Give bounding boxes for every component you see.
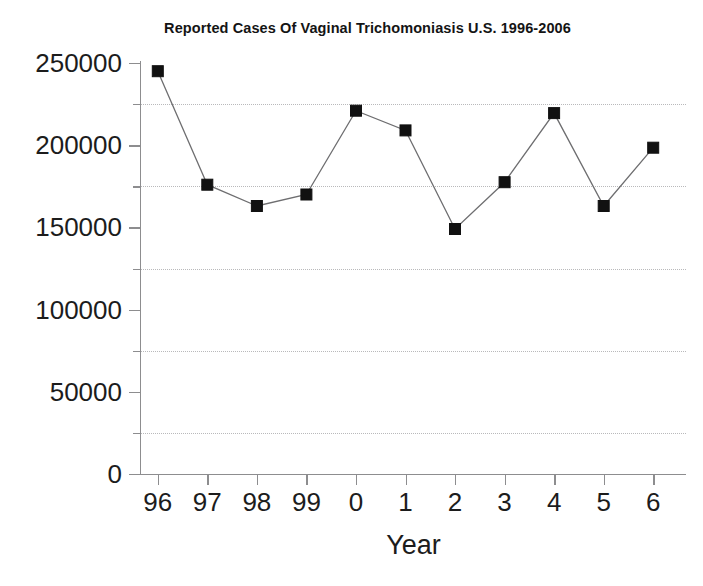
data-point-marker	[152, 66, 163, 77]
x-axis-tick	[604, 474, 605, 485]
data-point-marker	[549, 108, 560, 119]
data-point-marker	[251, 201, 262, 212]
y-axis-minor-tick	[133, 433, 141, 434]
y-axis-tick	[129, 227, 141, 228]
data-point-markers	[152, 66, 658, 235]
x-axis-tick	[455, 474, 456, 485]
x-axis-tick	[257, 474, 258, 485]
x-axis-tick	[158, 474, 159, 485]
y-axis-tick	[129, 474, 141, 475]
x-axis-tick-label: 6	[623, 489, 683, 515]
y-axis-tick-label: 250000	[0, 50, 122, 76]
x-axis-tick	[207, 474, 208, 485]
y-axis-minor-tick	[133, 104, 141, 105]
data-series-line	[133, 55, 694, 482]
data-point-marker	[598, 201, 609, 212]
data-point-marker	[648, 142, 659, 153]
data-point-marker	[202, 179, 213, 190]
data-point-marker	[400, 125, 411, 136]
x-axis-tick	[356, 474, 357, 485]
data-point-marker	[450, 224, 461, 235]
x-axis-tick	[554, 474, 555, 485]
data-point-marker	[351, 105, 362, 116]
series-polyline	[158, 71, 653, 229]
x-axis-tick	[505, 474, 506, 485]
y-axis-tick	[129, 310, 141, 311]
y-axis-tick	[129, 145, 141, 146]
data-point-marker	[499, 177, 510, 188]
y-axis-minor-tick	[133, 186, 141, 187]
y-axis-tick-label: 50000	[0, 379, 122, 405]
data-point-marker	[301, 189, 312, 200]
y-axis-tick-label: 200000	[0, 132, 122, 158]
x-axis-title: Year	[141, 530, 686, 561]
y-axis-minor-tick	[133, 351, 141, 352]
y-axis-tick-label: 100000	[0, 297, 122, 323]
x-axis-tick	[653, 474, 654, 485]
x-axis-tick	[306, 474, 307, 485]
y-axis-tick	[129, 392, 141, 393]
y-axis-tick-label: 0	[0, 461, 122, 487]
y-axis-tick	[129, 63, 141, 64]
chart-title: Reported Cases Of Vaginal Trichomoniasis…	[0, 20, 703, 36]
y-axis-minor-tick	[133, 269, 141, 270]
plot-area	[141, 63, 686, 474]
chart-container: Reported Cases Of Vaginal Trichomoniasis…	[0, 0, 703, 586]
y-axis-tick-label: 150000	[0, 214, 122, 240]
x-axis-tick	[406, 474, 407, 485]
